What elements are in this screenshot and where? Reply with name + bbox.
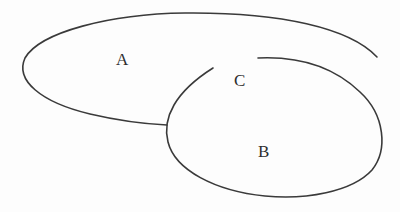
curve-b: [167, 58, 382, 197]
diagram-canvas: A C B: [0, 0, 400, 212]
label-a: A: [116, 51, 128, 68]
diagram-svg: [0, 0, 400, 212]
label-b: B: [258, 143, 269, 160]
label-c: C: [234, 72, 245, 89]
